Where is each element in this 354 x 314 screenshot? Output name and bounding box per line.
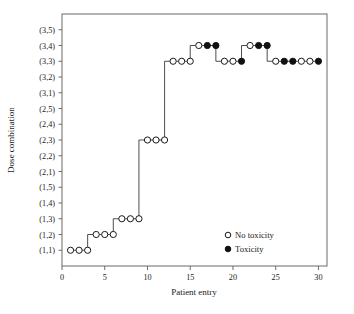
legend-label-no-toxicity: No toxicity [235,230,275,240]
y-axis-ticks [59,30,63,251]
data-point-toxicity [315,58,321,64]
y-tick-label: (1,5) [39,183,55,192]
y-tick-label: (2,5) [39,105,55,114]
data-point-no-toxicity [85,247,91,253]
x-tick-label: 0 [60,273,64,282]
data-point-no-toxicity [170,58,176,64]
y-axis-title: Dose combination [6,107,16,173]
data-point-no-toxicity [230,58,236,64]
data-point-no-toxicity [110,231,116,237]
data-point-no-toxicity [187,58,193,64]
data-point-no-toxicity [307,58,313,64]
y-tick-label: (1,3) [39,215,55,224]
data-point-toxicity [238,58,244,64]
data-point-no-toxicity [102,231,108,237]
data-point-no-toxicity [221,58,227,64]
y-tick-label: (2,1) [39,168,55,177]
dose-escalation-chart: (3,5)(3,4)(3,3)(3,2)(3,1)(2,5)(2,4)(2,3)… [0,0,354,314]
x-tick-label: 15 [186,273,194,282]
legend-marker-no-toxicity [225,232,231,238]
x-axis-ticks [62,266,318,270]
data-point-no-toxicity [179,58,185,64]
y-tick-label: (1,1) [39,246,55,255]
data-point-no-toxicity [144,137,150,143]
data-point-no-toxicity [127,216,133,222]
x-tick-label: 25 [272,273,280,282]
data-point-toxicity [213,42,219,48]
y-tick-label: (3,5) [39,26,55,35]
data-point-toxicity [290,58,296,64]
step-path [71,46,319,251]
data-point-toxicity [281,58,287,64]
x-tick-label: 30 [314,273,322,282]
x-tick-label: 10 [143,273,151,282]
y-tick-label: (2,3) [39,136,55,145]
y-tick-label: (3,3) [39,57,55,66]
data-point-no-toxicity [67,247,73,253]
legend-marker-toxicity [225,246,231,252]
legend-label-toxicity: Toxicity [235,244,264,254]
data-point-no-toxicity [76,247,82,253]
data-point-no-toxicity [153,137,159,143]
y-tick-label: (1,4) [39,199,55,208]
legend: No toxicity Toxicity [225,230,274,254]
y-tick-label: (2,2) [39,152,55,161]
y-tick-label: (3,4) [39,42,55,51]
data-point-no-toxicity [298,58,304,64]
data-point-no-toxicity [196,42,202,48]
data-points [67,42,321,253]
y-tick-label: (3,2) [39,73,55,82]
y-axis-tick-labels: (3,5)(3,4)(3,3)(3,2)(3,1)(2,5)(2,4)(2,3)… [39,26,55,256]
data-point-no-toxicity [247,42,253,48]
x-axis-title: Patient entry [171,287,217,297]
data-point-no-toxicity [119,216,125,222]
x-axis-tick-labels: 051015202530 [60,273,323,282]
data-point-no-toxicity [93,231,99,237]
data-point-toxicity [204,42,210,48]
chart-canvas: (3,5)(3,4)(3,3)(3,2)(3,1)(2,5)(2,4)(2,3)… [0,0,354,314]
data-point-toxicity [264,42,270,48]
plot-frame [62,14,327,266]
x-tick-label: 20 [229,273,237,282]
y-tick-label: (3,1) [39,89,55,98]
data-point-toxicity [256,42,262,48]
x-tick-label: 5 [103,273,107,282]
data-point-no-toxicity [161,137,167,143]
data-point-no-toxicity [273,58,279,64]
data-point-no-toxicity [136,216,142,222]
y-tick-label: (1,2) [39,231,55,240]
y-tick-label: (2,4) [39,120,55,129]
